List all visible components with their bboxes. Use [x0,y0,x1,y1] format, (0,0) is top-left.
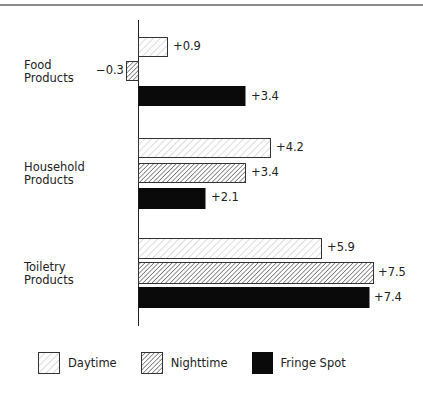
category-label-toiletry: Toiletry Products [24,261,74,287]
legend-label: Fringe Spot [281,356,346,370]
value-label-toiletry-daytime: +5.9 [327,241,355,254]
category-label-household: Household Products [24,161,85,187]
value-label-food-nighttime: −0.3 [96,64,124,77]
legend-item-fringe: Fringe Spot [252,352,346,374]
bar-food-fringe [139,86,246,106]
bar-toiletry-fringe [139,287,370,308]
bar-household-nighttime [139,164,246,183]
legend: Daytime Nighttime Fringe Spot [38,352,370,374]
value-label-household-daytime: +4.2 [276,141,304,154]
legend-label: Daytime [68,356,117,370]
value-label-household-fringe: +2.1 [211,191,239,204]
value-label-food-fringe: +3.4 [251,90,279,103]
solid-swatch-icon [252,352,273,374]
light-hatch-swatch-icon [38,352,60,374]
legend-item-nighttime: Nighttime [141,352,228,374]
bar-household-fringe [139,188,206,209]
bar-household-daytime [139,139,271,158]
legend-item-daytime: Daytime [38,352,117,374]
category-label-food: Food Products [24,59,74,85]
bar-toiletry-daytime [139,239,322,259]
category-line2: Products [24,72,74,85]
category-line2: Products [24,274,74,287]
bar-toiletry-nighttime [139,263,374,284]
bar-food-nighttime [127,62,139,81]
dense-hatch-swatch-icon [141,352,163,374]
category-line2: Products [24,174,85,187]
legend-label: Nighttime [171,356,228,370]
value-label-food-daytime: +0.9 [173,40,201,53]
value-label-household-nighttime: +3.4 [251,166,279,179]
bar-food-daytime [139,38,168,57]
value-label-toiletry-nighttime: +7.5 [378,266,406,279]
value-label-toiletry-fringe: +7.4 [374,291,402,304]
